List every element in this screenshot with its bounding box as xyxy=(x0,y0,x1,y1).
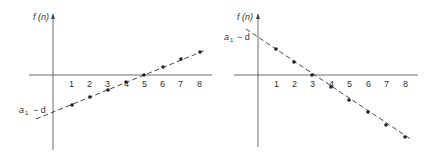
svg-text:1: 1 xyxy=(274,79,279,89)
svg-text:7: 7 xyxy=(384,79,389,89)
svg-text:6: 6 xyxy=(366,79,371,89)
left-y-axis-arrow-icon xyxy=(51,13,55,19)
svg-text:5: 5 xyxy=(347,79,352,89)
svg-text:1: 1 xyxy=(230,37,234,43)
left-intercept-label: a 1 − d xyxy=(19,105,46,116)
svg-text:8: 8 xyxy=(197,79,202,89)
svg-text:1: 1 xyxy=(69,79,74,89)
right-data-points xyxy=(274,47,407,139)
svg-text:6: 6 xyxy=(160,79,165,89)
svg-text:2: 2 xyxy=(87,79,92,89)
svg-text:7: 7 xyxy=(178,79,183,89)
left-y-label: f (n) xyxy=(33,12,49,22)
svg-text:5: 5 xyxy=(142,79,147,89)
svg-text:a: a xyxy=(224,32,229,42)
right-y-label: f (n) xyxy=(237,12,253,22)
svg-text:1: 1 xyxy=(25,110,29,116)
svg-text:8: 8 xyxy=(403,79,408,89)
right-chart: f (n) 1 2 3 4 5 6 7 8 a 1 − d xyxy=(224,12,418,147)
svg-text:2: 2 xyxy=(292,79,297,89)
charts-canvas: f (n) 1 2 3 4 5 6 7 8 a 1 − d xyxy=(0,0,437,161)
right-y-axis-arrow-icon xyxy=(256,13,260,19)
svg-text:3: 3 xyxy=(310,79,315,89)
svg-text:− d: − d xyxy=(33,105,46,115)
right-intercept-label: a 1 − d xyxy=(224,32,250,43)
left-chart: f (n) 1 2 3 4 5 6 7 8 a 1 − d xyxy=(19,12,212,150)
left-x-ticks: 1 2 3 4 5 6 7 8 xyxy=(69,79,202,89)
right-x-ticks: 1 2 3 4 5 6 7 8 xyxy=(274,79,408,89)
svg-text:− d: − d xyxy=(237,32,250,42)
svg-text:3: 3 xyxy=(105,79,110,89)
svg-text:a: a xyxy=(19,105,24,115)
